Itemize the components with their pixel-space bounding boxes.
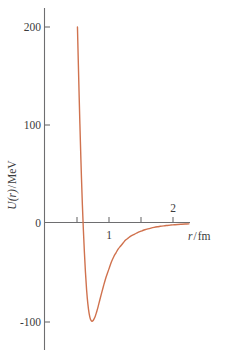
x-axis-title: r/fm: [188, 230, 211, 242]
y-axis-ticks: [45, 27, 51, 322]
svg-text:U(r)/MeV: U(r)/MeV: [6, 160, 19, 210]
chart-plot-area: 200 100 0 -100 1 2 r/fm U(r)/MeV: [0, 0, 225, 354]
y-axis-title-argument: (r): [6, 189, 19, 201]
y-tick-label-100: 100: [24, 119, 42, 131]
x-tick-label-1: 1: [106, 229, 112, 241]
y-tick-label-200: 200: [24, 21, 42, 33]
y-axis-title-unit: MeV: [6, 160, 18, 184]
y-tick-label-0: 0: [35, 217, 41, 229]
svg-text:r/fm: r/fm: [188, 230, 211, 242]
x-axis-title-variable: r: [188, 230, 193, 242]
potential-energy-chart-figure: 200 100 0 -100 1 2 r/fm U(r)/MeV: [0, 0, 225, 354]
y-axis-title: U(r)/MeV: [6, 160, 19, 210]
x-axis-title-unit: fm: [198, 230, 211, 242]
x-axis-ticks: [77, 217, 173, 223]
y-tick-label-minus-100: -100: [20, 316, 41, 328]
potential-curve: [77, 27, 188, 321]
x-tick-label-2: 2: [170, 202, 176, 214]
